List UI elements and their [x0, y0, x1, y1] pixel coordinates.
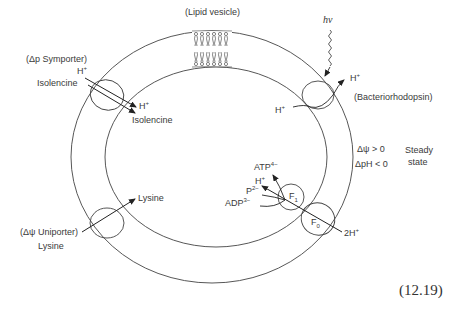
uniporter-label: (Δψ Uniporter): [20, 228, 78, 237]
symporter-substrate-in: Isolencine: [37, 79, 78, 88]
adp-label: ADP3−: [225, 199, 250, 208]
bacteriorhodopsin-h-out: H+: [350, 74, 360, 83]
bacteriorhodopsin-h-in: H+: [275, 106, 285, 115]
delta-psi-condition: Δψ > 0: [357, 145, 385, 154]
phosphate-label: P2−: [246, 187, 259, 196]
lysine-out-label: Lysine: [38, 242, 64, 251]
delta-ph-condition: ΔpH < 0: [355, 160, 388, 169]
lipid-vesicle-label: (Lipid vesicle): [185, 8, 240, 17]
inner-membrane: [105, 67, 327, 247]
photon-label: hν: [323, 14, 332, 25]
outer-membrane: [71, 31, 353, 283]
vesicle-diagram: [0, 0, 455, 313]
steady-state-line1: Steady: [405, 146, 433, 155]
f0-label: F0: [311, 218, 320, 227]
two-h-label: 2H+: [344, 229, 359, 238]
f1-label: F1: [289, 192, 298, 201]
symporter-protein: [85, 75, 136, 115]
uniporter-protein: [82, 199, 135, 238]
equation-number: (12.19): [399, 282, 443, 299]
lipid-bilayer-icon: [192, 31, 232, 68]
atp-label: ATP4−: [254, 163, 278, 172]
steady-state-line2: state: [408, 158, 428, 167]
symporter-substrate-out: Isolencine: [132, 116, 173, 125]
lysine-in-label: Lysine: [138, 194, 164, 203]
symporter-h-out: H+: [139, 102, 149, 111]
symporter-label: (Δp Symporter): [26, 55, 87, 64]
photon-wave-icon: [329, 30, 332, 66]
atp-synthase: [260, 175, 342, 241]
symporter-h-in: H+: [77, 67, 87, 76]
bacteriorhodopsin-label: (Bacteriorhodopsin): [354, 93, 433, 102]
